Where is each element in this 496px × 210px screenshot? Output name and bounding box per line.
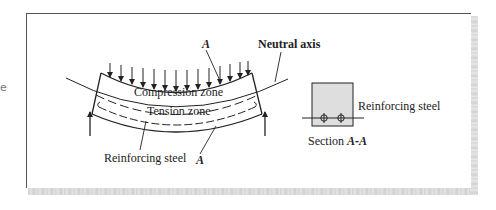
- leader-lines: [140, 50, 281, 154]
- cross-section-a-a: [302, 83, 364, 126]
- section-marker-a-top: A: [202, 38, 210, 50]
- section-caption-id: A-A: [347, 134, 367, 148]
- tension-zone-label: Tension zone: [147, 105, 210, 117]
- reinforcing-steel-section-label: Reinforcing steel: [358, 100, 440, 112]
- neutral-axis-label: Neutral axis: [258, 38, 320, 50]
- beam-outline: [92, 73, 262, 132]
- section-caption: Section A-A: [308, 135, 367, 147]
- section-caption-prefix: Section: [308, 134, 347, 148]
- reinforcing-steel-beam-label: Reinforcing steel: [104, 152, 186, 164]
- compression-zone-label: Compression zone: [134, 86, 223, 98]
- section-marker-a-bottom: A: [196, 154, 204, 166]
